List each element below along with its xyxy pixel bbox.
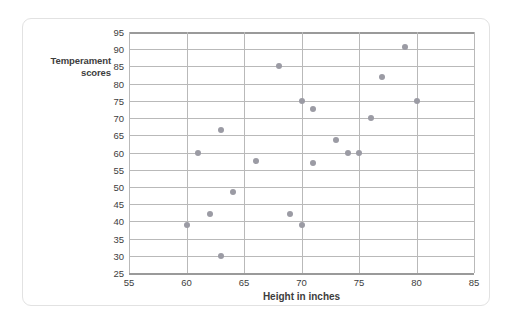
data-point	[310, 106, 316, 112]
x-tick-label: 65	[239, 277, 250, 288]
data-point	[218, 253, 224, 259]
y-tick-label: 85	[113, 61, 124, 72]
data-point	[276, 63, 282, 69]
x-tick-label: 85	[469, 277, 480, 288]
y-tick-label: 30	[113, 250, 124, 261]
y-tick-label: 70	[113, 113, 124, 124]
data-point	[299, 98, 305, 104]
data-point	[333, 137, 339, 143]
y-tick-label: 60	[113, 147, 124, 158]
x-axis-title: Height in inches	[129, 291, 474, 302]
x-gridline: 85	[474, 32, 475, 273]
plot-area: 2530354045505560657075808590955560657075…	[129, 32, 474, 273]
x-tick-label: 60	[181, 277, 192, 288]
x-gridline: 65	[244, 32, 245, 273]
y-gridline: 25	[129, 273, 474, 275]
data-point	[230, 189, 236, 195]
data-point	[207, 211, 213, 217]
data-point	[356, 150, 362, 156]
y-tick-label: 90	[113, 44, 124, 55]
x-tick-label: 80	[411, 277, 422, 288]
y-axis-title: Temperament scores	[33, 55, 111, 79]
data-point	[218, 127, 224, 133]
x-gridline: 55	[129, 32, 130, 273]
data-point	[310, 160, 316, 166]
data-point	[414, 98, 420, 104]
y-tick-label: 75	[113, 95, 124, 106]
data-point	[368, 115, 374, 121]
data-point	[195, 150, 201, 156]
data-point	[287, 211, 293, 217]
y-tick-label: 25	[113, 268, 124, 279]
x-gridline: 70	[302, 32, 303, 273]
x-gridline: 60	[187, 32, 188, 273]
y-tick-label: 95	[113, 27, 124, 38]
x-tick-label: 55	[124, 277, 135, 288]
x-tick-label: 75	[354, 277, 365, 288]
y-tick-label: 50	[113, 181, 124, 192]
y-tick-label: 45	[113, 199, 124, 210]
y-tick-label: 65	[113, 130, 124, 141]
data-point	[345, 150, 351, 156]
data-point	[253, 158, 259, 164]
data-point	[299, 222, 305, 228]
y-axis-title-line-2: scores	[33, 67, 111, 79]
y-axis-title-line-1: Temperament	[33, 55, 111, 67]
y-tick-label: 55	[113, 164, 124, 175]
scatter-plot-card: Temperament scores 253035404550556065707…	[22, 18, 490, 306]
x-gridline: 80	[417, 32, 418, 273]
y-tick-label: 40	[113, 216, 124, 227]
y-tick-label: 35	[113, 233, 124, 244]
data-point	[184, 222, 190, 228]
x-tick-label: 70	[296, 277, 307, 288]
y-tick-label: 80	[113, 78, 124, 89]
data-point	[379, 74, 385, 80]
